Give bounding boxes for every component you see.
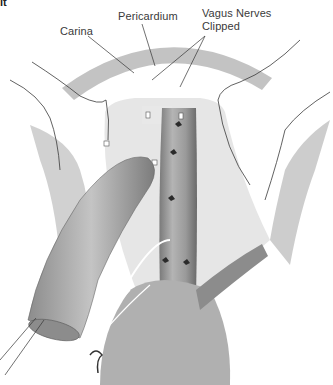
vagus-clip-right bbox=[179, 113, 183, 119]
label-carina: Carina bbox=[60, 25, 93, 37]
label-pericardium: Pericardium bbox=[118, 10, 178, 22]
esophagus bbox=[159, 108, 197, 300]
label-vagus-nerves-line1: Vagus Nerves bbox=[202, 7, 271, 19]
anatomy-drawing bbox=[0, 0, 333, 385]
pericardium-arch bbox=[62, 47, 272, 100]
medical-illustration: it bbox=[0, 0, 333, 385]
label-vagus-nerves-line2: Clipped bbox=[202, 20, 240, 32]
corner-text-fragment: it bbox=[0, 0, 7, 8]
small-vessel bbox=[90, 351, 102, 373]
right-pleura bbox=[270, 120, 330, 265]
side-clip-1 bbox=[104, 141, 109, 146]
vagus-clip-left bbox=[146, 112, 150, 118]
